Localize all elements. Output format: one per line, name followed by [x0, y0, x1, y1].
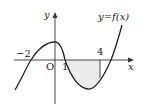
origin-label: O: [46, 61, 54, 72]
function-curve: [15, 25, 122, 90]
function-label: y=f(x): [97, 11, 129, 22]
tick-label-four: 4: [97, 46, 103, 57]
x-axis-label: x: [128, 61, 134, 72]
shaded-region: [65, 60, 100, 89]
function-graph: y x O −2 1 4 y=f(x): [0, 0, 145, 112]
y-axis-label: y: [43, 9, 50, 20]
tick-label-one: 1: [62, 61, 68, 72]
y-axis-arrow-icon: [53, 12, 58, 18]
tick-label-neg-two: −2: [16, 48, 31, 59]
